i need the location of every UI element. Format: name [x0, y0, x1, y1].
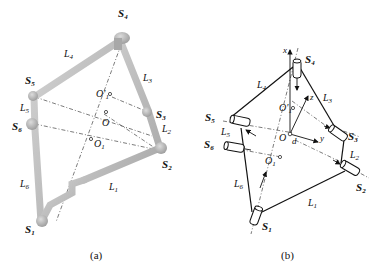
joint-s4 [293, 59, 301, 78]
label-a-o1prime: O'1 [96, 88, 109, 101]
label-b-s3: S3 [348, 130, 358, 144]
label-b-s4: S4 [305, 53, 315, 67]
label-b-l6: L6 [233, 178, 244, 191]
joint-s2 [339, 160, 360, 177]
label-b-d: d [292, 136, 297, 146]
label-a-s4: S4 [118, 7, 128, 21]
label-b-s1: S1 [262, 220, 272, 234]
label-b-l2: L2 [349, 149, 360, 162]
label-b-z-axis: z [309, 92, 314, 102]
label-a-s1: S1 [25, 223, 35, 237]
label-b-s5: S5 [205, 111, 215, 125]
linkage-rods [34, 40, 160, 222]
label-a-l2: L2 [161, 123, 172, 136]
label-b-x-axis: x [282, 45, 287, 55]
label-a-o: O [102, 117, 109, 128]
label-b-s6: S6 [204, 138, 214, 152]
label-b-l5: L5 [220, 126, 231, 139]
figure-canvas: S4 L4 L3 S5 O'1 L5 S3 O S6 L2 O1 S2 L6 L… [0, 0, 378, 269]
label-a-s6: S6 [12, 120, 22, 134]
joint-s5 [229, 115, 250, 127]
label-b-l1: L1 [307, 197, 317, 210]
label-b-y-axis: y [319, 133, 324, 143]
figure-b: x S4 L4 L3 z O'1 S5 L5 S3 O d y S6 L2 O1… [204, 45, 369, 262]
joints [26, 32, 167, 227]
label-a-l3: L3 [142, 72, 153, 85]
label-a-s3: S3 [156, 108, 166, 122]
label-a-l6: L6 [19, 178, 30, 191]
joint-s6 [223, 141, 244, 152]
label-b-o1: O1 [265, 155, 276, 168]
label-b-s2: S2 [356, 181, 366, 195]
label-b-l4: L4 [256, 79, 267, 92]
construction-lines [35, 45, 158, 222]
label-a-l4: L4 [63, 48, 74, 61]
label-b-l3: L3 [322, 92, 333, 105]
label-b-o: O [279, 132, 286, 143]
axes-b [240, 50, 340, 188]
label-a-s5: S5 [25, 74, 35, 88]
figure-a: S4 L4 L3 S5 O'1 L5 S3 O S6 L2 O1 S2 L6 L… [12, 7, 172, 262]
label-a-o1: O1 [94, 138, 105, 151]
label-a-l1: L1 [108, 181, 118, 194]
caption-a: (a) [90, 249, 103, 262]
label-a-s2: S2 [162, 158, 172, 172]
label-a-l5: L5 [19, 102, 30, 115]
joint-s3 [328, 124, 349, 142]
caption-b: (b) [281, 249, 294, 262]
